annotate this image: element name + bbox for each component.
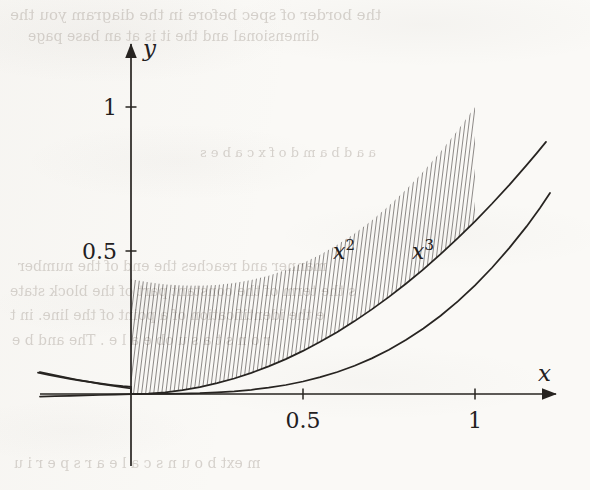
y-tick-label-0.5: 0.5 xyxy=(82,239,117,264)
curve-x-squared-left-branch xyxy=(40,372,131,394)
y-tick-label-1: 1 xyxy=(103,95,117,120)
x-axis-label: x xyxy=(538,360,551,386)
x-tick-label-0.5: 0.5 xyxy=(286,408,321,433)
curve-label-x-squared-exponent: 2 xyxy=(345,236,355,254)
curve-label-x-cubed-base: x xyxy=(412,239,425,264)
y-axis-label: y xyxy=(142,35,157,61)
plot-figure: 0.5 1 0.5 1 x y x2 x3 xyxy=(0,0,590,490)
figure-page: the border of spec before in the diagram… xyxy=(0,0,590,490)
x-tick-label-1: 1 xyxy=(468,408,482,433)
axes-group xyxy=(40,44,556,466)
curve-label-x-cubed-exponent: 3 xyxy=(424,236,434,254)
curve-label-x-squared-base: x xyxy=(333,239,346,264)
